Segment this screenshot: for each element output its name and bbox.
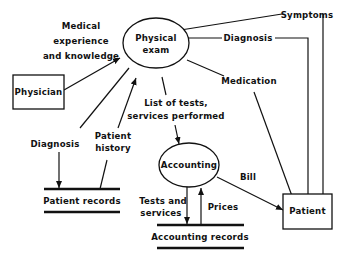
accounting-label: Accounting xyxy=(161,160,217,170)
patient-records-label: Patient records xyxy=(43,196,121,206)
diagnosis-to-patient-label: Diagnosis xyxy=(223,33,272,43)
data-flow-diagram: Physician Physical exam Accounting Patie… xyxy=(0,0,341,257)
flow-medication-b xyxy=(254,92,296,207)
bill-label: Bill xyxy=(240,172,256,182)
symptoms-label: Symptoms xyxy=(281,10,334,20)
medical-experience-label-1: Medical xyxy=(62,21,101,31)
prices-label: Prices xyxy=(208,202,239,212)
patient-label: Patient xyxy=(289,206,325,216)
flow-medication-a xyxy=(187,60,224,76)
physical-exam-label-2: exam xyxy=(143,45,170,55)
flow-symptoms-line xyxy=(168,14,282,32)
medication-label: Medication xyxy=(221,76,276,86)
medical-experience-label-2: experience xyxy=(53,36,108,46)
flow-medical-experience xyxy=(64,58,120,90)
medical-experience-label-3: and knowledge xyxy=(43,51,119,61)
diagnosis-to-records-label: Diagnosis xyxy=(30,139,79,149)
physical-exam-label-1: Physical xyxy=(135,33,177,43)
flow-diagnosis-to-patient-b xyxy=(275,38,308,207)
flow-list-of-tests-b xyxy=(175,125,179,144)
tests-and-services-label-2: services xyxy=(140,208,181,218)
flow-list-of-tests-a xyxy=(162,77,166,95)
flow-patient-history-a xyxy=(100,160,107,189)
list-of-tests-label-2: services performed xyxy=(127,111,224,121)
patient-history-label-2: history xyxy=(95,143,131,153)
accounting-records-label: Accounting records xyxy=(151,232,248,242)
physical-exam-node xyxy=(123,18,189,68)
patient-history-label-1: Patient xyxy=(95,131,131,141)
physician-label: Physician xyxy=(15,87,63,97)
tests-and-services-label-1: Tests and xyxy=(139,196,187,206)
list-of-tests-label-1: List of tests, xyxy=(144,98,208,108)
